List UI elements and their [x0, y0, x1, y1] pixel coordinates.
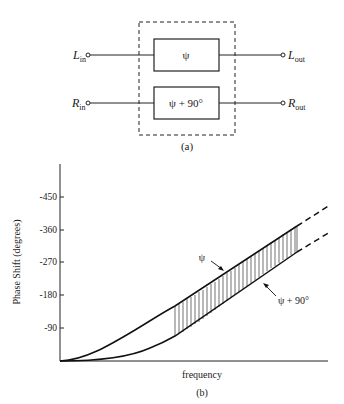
- r-out-terminal: [281, 101, 285, 105]
- psi-plus-90-arrowhead-icon: [263, 283, 269, 288]
- y-axis-label: Phase Shift (degrees): [11, 220, 23, 305]
- psi-annotation: ψ: [199, 252, 206, 263]
- l-in-terminal: [86, 53, 90, 57]
- figure: Lin Rin Lout Rout ψ ψ + 90° (a) -90 -180…: [0, 0, 344, 404]
- psi-curve: [60, 226, 297, 361]
- l-out-terminal: [281, 53, 285, 57]
- psi-plus-90-curve: [60, 252, 297, 361]
- l-in-label: Lin: [72, 48, 86, 64]
- psi-plus-90-curve-extrapolation: [297, 232, 330, 252]
- x-axis-label: frequency: [182, 369, 222, 380]
- y-tick-360: -360: [40, 225, 58, 235]
- hatched-band: [175, 226, 297, 336]
- y-tick-90: -90: [44, 323, 57, 333]
- y-tick-450: -450: [40, 192, 58, 202]
- y-ticks: [60, 197, 64, 328]
- l-out-label: Lout: [287, 48, 306, 64]
- y-tick-270: -270: [40, 257, 58, 267]
- y-tick-180: -180: [40, 290, 58, 300]
- psi-plus-90-annotation: ψ + 90°: [278, 295, 309, 306]
- block-diagram: Lin Rin Lout Rout ψ ψ + 90° (a): [71, 22, 306, 153]
- r-in-terminal: [86, 101, 90, 105]
- r-in-label: Rin: [71, 96, 86, 112]
- psi-curve-extrapolation: [297, 205, 330, 226]
- psi-plus-90-block-label: ψ + 90°: [169, 97, 203, 109]
- caption-a: (a): [181, 140, 194, 153]
- caption-b: (b): [196, 387, 208, 399]
- r-out-label: Rout: [287, 96, 306, 112]
- psi-block-label: ψ: [183, 49, 190, 61]
- phase-chart: -90 -180 -270 -360 -450 Phase Shift (deg…: [11, 164, 330, 399]
